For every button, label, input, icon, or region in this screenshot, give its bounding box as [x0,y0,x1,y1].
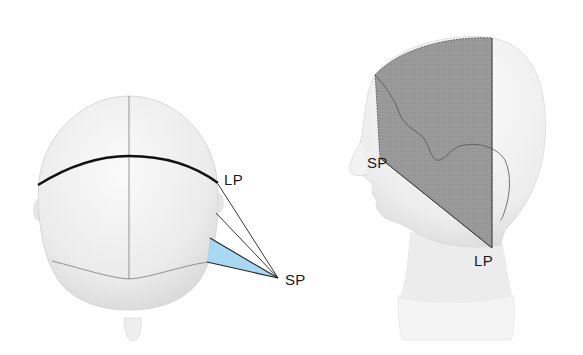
label-sp-top-view: SP [285,272,306,287]
label-lp-top-view: LP [224,172,243,187]
diagram: LP SP SP LP [0,0,583,355]
label-sp-side-view: SP [367,155,388,170]
top-view-head [33,96,278,341]
side-view-head [350,36,546,340]
nose [124,318,141,341]
diagram-canvas [0,0,583,355]
head-outline [38,96,218,310]
label-lp-side-view: LP [474,253,493,268]
